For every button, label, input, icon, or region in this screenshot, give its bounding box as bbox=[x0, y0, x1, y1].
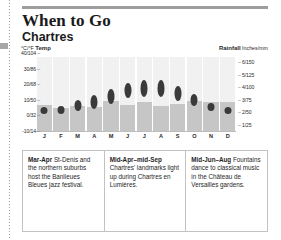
month-column bbox=[103, 53, 118, 131]
month-label: J bbox=[136, 133, 153, 139]
rainfall-tick-label: 1/25 bbox=[242, 122, 252, 128]
temperature-range-marker bbox=[141, 80, 148, 97]
month-column bbox=[53, 53, 68, 131]
rainfall-bar bbox=[103, 101, 118, 131]
tick-dash: – bbox=[36, 97, 40, 103]
temperature-tick-label: -10/14 bbox=[22, 128, 36, 134]
month-label: F bbox=[53, 133, 70, 139]
chart-baseline bbox=[36, 131, 236, 132]
rainfall-bar bbox=[153, 106, 168, 131]
temperature-range-marker bbox=[57, 106, 64, 114]
rainfall-tick: –6/150 bbox=[238, 59, 254, 65]
temperature-tick: 10/50– bbox=[18, 97, 40, 103]
rainfall-tick-label: 4/100 bbox=[242, 84, 254, 90]
events-row: Mar-Apr St-Denis and the northern suburb… bbox=[22, 150, 268, 232]
event-period: Mid-Jun–Aug bbox=[191, 156, 231, 163]
rainfall-axis-label: Rainfall bbox=[219, 45, 241, 51]
month-column bbox=[203, 53, 218, 131]
month-column bbox=[170, 53, 185, 131]
rainfall-bar bbox=[137, 102, 152, 131]
month-column bbox=[137, 53, 152, 131]
climate-chart: 40/104–30/86–20/68–10/50–0/32–-10/14– –6… bbox=[18, 53, 268, 143]
rainfall-bar bbox=[170, 104, 185, 131]
temperature-range-marker bbox=[207, 103, 214, 111]
event-box: Mid-Jun–Aug Fountains dance to classical… bbox=[185, 150, 268, 232]
temperature-range-marker bbox=[41, 107, 48, 114]
rainfall-axis-unit: Inches/mm bbox=[241, 45, 268, 51]
temperature-range-marker bbox=[174, 86, 181, 102]
rainfall-tick: –4/100 bbox=[238, 84, 254, 90]
tick-dash: – bbox=[36, 112, 40, 118]
month-label: J bbox=[119, 133, 136, 139]
temperature-range-marker bbox=[157, 80, 164, 97]
event-box: Mid-Apr–mid-Sep Chartres' landmarks ligh… bbox=[104, 150, 186, 232]
chart-plot-area bbox=[36, 53, 236, 131]
temperature-tick-label: 20/68 bbox=[24, 81, 36, 87]
rainfall-bar bbox=[120, 105, 135, 131]
tick-dash: – bbox=[36, 66, 40, 72]
temperature-tick-label: 30/86 bbox=[24, 66, 36, 72]
month-column bbox=[87, 53, 102, 131]
month-column bbox=[70, 53, 85, 131]
month-label: M bbox=[103, 133, 120, 139]
month-label: N bbox=[203, 133, 220, 139]
month-column bbox=[153, 53, 168, 131]
rainfall-tick: –1/25 bbox=[238, 122, 252, 128]
tick-dash: – bbox=[36, 50, 40, 56]
month-label: A bbox=[86, 133, 103, 139]
rainfall-tick: –5/125 bbox=[238, 72, 254, 78]
rainfall-tick-label: 2/50 bbox=[242, 109, 252, 115]
month-column bbox=[187, 53, 202, 131]
month-column bbox=[120, 53, 135, 131]
event-period: Mar-Apr bbox=[28, 156, 52, 163]
month-label: A bbox=[153, 133, 170, 139]
rainfall-tick-label: 3/75 bbox=[242, 97, 252, 103]
rainfall-tick: –3/75 bbox=[238, 97, 252, 103]
when-to-go-page: When to Go Chartres °C/°F Temp Rainfall … bbox=[0, 0, 281, 240]
temperature-range-marker bbox=[74, 100, 81, 111]
event-period: Mid-Apr–mid-Sep bbox=[110, 156, 162, 163]
temperature-tick: 40/104– bbox=[18, 50, 40, 56]
temperature-tick-label: 40/104 bbox=[21, 50, 36, 56]
month-label: S bbox=[169, 133, 186, 139]
page-edge-dotted-line bbox=[9, 0, 10, 240]
page-subtitle: Chartres bbox=[22, 30, 73, 44]
event-description: Chartres' landmarks light up during Char… bbox=[110, 164, 179, 188]
rainfall-bar bbox=[87, 107, 102, 131]
page-title: When to Go bbox=[22, 11, 111, 31]
temperature-range-marker bbox=[91, 95, 98, 109]
rainfall-tick-label: 6/150 bbox=[242, 59, 254, 65]
tick-dash: – bbox=[36, 81, 40, 87]
month-label: J bbox=[36, 133, 53, 139]
event-box: Mar-Apr St-Denis and the northern suburb… bbox=[22, 150, 104, 232]
temperature-range-marker bbox=[107, 89, 114, 105]
header-rule bbox=[22, 6, 268, 9]
temperature-range-marker bbox=[124, 83, 131, 99]
month-label: D bbox=[219, 133, 236, 139]
page-edge-tab-marker bbox=[0, 43, 8, 49]
temperature-tick: 20/68– bbox=[18, 81, 40, 87]
temperature-tick: 30/86– bbox=[18, 66, 40, 72]
rainfall-tick-label: 5/125 bbox=[242, 72, 254, 78]
rainfall-axis-caption: Rainfall Inches/mm bbox=[219, 45, 268, 51]
month-column bbox=[220, 53, 235, 131]
temperature-range-marker bbox=[224, 107, 231, 114]
rainfall-tick: –2/50 bbox=[238, 109, 252, 115]
month-label: M bbox=[69, 133, 86, 139]
temperature-tick: 0/32– bbox=[18, 112, 40, 118]
temperature-tick-label: 0/32 bbox=[26, 112, 36, 118]
month-label: O bbox=[186, 133, 203, 139]
temperature-tick-label: 10/50 bbox=[24, 97, 36, 103]
